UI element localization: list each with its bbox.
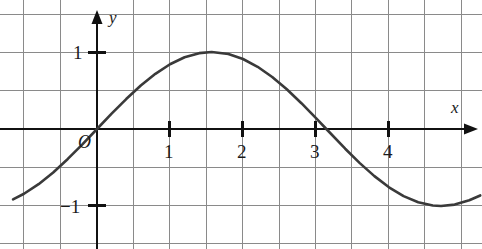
x-axis-arrowhead	[464, 124, 478, 135]
y-tick-label-1: 1	[73, 43, 83, 62]
origin-label: O	[78, 133, 91, 151]
y-tick-label-neg1: −1	[60, 197, 80, 216]
x-tick-label-1: 1	[164, 142, 174, 161]
x-axis-label: x	[451, 99, 459, 116]
x-tick-label-2: 2	[237, 142, 247, 161]
x-tick-label-3: 3	[310, 142, 320, 161]
y-axis-arrowhead	[92, 10, 103, 24]
graph-figure: y x O 1 2 3 4 1 −1	[0, 0, 482, 249]
y-axis-label: y	[109, 9, 117, 26]
x-tick-label-4: 4	[383, 142, 393, 161]
